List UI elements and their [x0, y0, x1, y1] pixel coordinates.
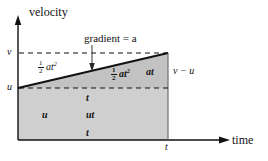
one-half-fraction-upper: 1 2: [38, 60, 44, 75]
gradient-annotation: gradient = a: [84, 33, 137, 44]
triangle-area-label-upper: 1 2 at2: [38, 60, 57, 75]
fraction-denominator: 2: [111, 74, 117, 82]
triangle-area-label-inner: 1 2 at2: [111, 67, 130, 82]
y-tick-label-u: u: [7, 82, 12, 92]
exponent-inner: 2: [127, 67, 130, 74]
y-axis-arrowhead: [15, 15, 21, 25]
fraction-numerator: 1: [111, 67, 117, 74]
rect-area-label: ut: [86, 110, 94, 120]
exponent-upper: 2: [54, 60, 57, 67]
one-half-fraction-inner: 1 2: [111, 67, 117, 82]
fraction-denominator: 2: [38, 67, 44, 75]
velocity-time-diagram: [0, 0, 268, 161]
triangle-height-label: at: [146, 67, 154, 77]
gradient-annotation-text: gradient = a: [84, 32, 137, 44]
y-tick-label-v: v: [7, 47, 11, 57]
y-axis-label: velocity: [29, 6, 68, 18]
fraction-numerator: 1: [38, 60, 44, 67]
rect-height-label: u: [42, 110, 48, 120]
velocity-change-label: v − u: [173, 66, 194, 76]
rect-bottom-width-label: t: [86, 128, 89, 138]
x-axis-arrowhead: [219, 137, 230, 144]
x-axis-label: time: [232, 134, 253, 146]
rect-top-width-label: t: [86, 93, 89, 103]
at-expression-inner: at: [119, 68, 127, 79]
at-expression-upper: at: [46, 61, 54, 72]
x-tick-label-t: t: [165, 142, 168, 152]
